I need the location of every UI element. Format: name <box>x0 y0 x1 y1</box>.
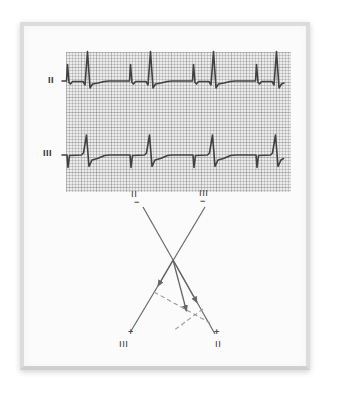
perpendicular-dashed-from-lead-ii <box>173 309 203 331</box>
figure-overlay <box>0 0 337 396</box>
vector-lead-iii-positive-sign: + <box>128 328 133 337</box>
vector-lead-iii-negative-sign: − <box>200 197 205 206</box>
vector-lead-ii-positive-label: II <box>215 339 221 349</box>
perpendicular-dashed-from-lead-iii <box>154 292 210 323</box>
lead-ii-projection-arrow <box>173 260 197 303</box>
vector-lead-iii-positive-label: III <box>119 339 128 349</box>
lead-ii-trace <box>62 52 284 89</box>
vector-lead-ii-positive-sign: + <box>214 328 219 337</box>
lead-iii-projection-arrow <box>158 260 173 286</box>
lead-iii-trace <box>62 135 284 168</box>
vector-lead-ii-negative-sign: − <box>134 198 139 207</box>
ecg-lead-ii-label: II <box>48 76 54 85</box>
ecg-lead-iii-label: III <box>43 149 52 158</box>
